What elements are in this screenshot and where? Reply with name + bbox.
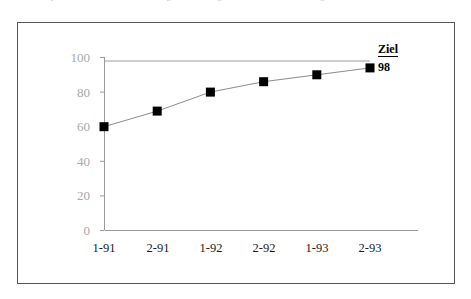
data-point-marker	[312, 70, 321, 79]
y-tick-label-60: 60	[50, 120, 90, 133]
y-tick-label-80: 80	[50, 86, 90, 99]
data-series-markers	[100, 63, 375, 131]
target-value: 98	[378, 60, 398, 74]
y-tick-label-20: 20	[50, 189, 90, 202]
y-tick-label-0: 0	[50, 224, 90, 237]
x-tick-label-2-93: 2-93	[342, 242, 398, 255]
target-annotation: Ziel 98	[378, 39, 398, 74]
y-tick-label-40: 40	[50, 155, 90, 168]
y-tick-label-100: 100	[50, 51, 90, 64]
data-point-marker	[259, 77, 268, 86]
y-axis-ticks	[100, 58, 104, 231]
data-point-marker	[366, 63, 375, 72]
x-tick-label-1-92: 1-92	[183, 242, 239, 255]
x-tick-label-1-93: 1-93	[289, 242, 345, 255]
x-tick-label-1-91: 1-91	[76, 242, 132, 255]
data-series-line	[104, 68, 370, 127]
data-point-marker	[100, 122, 109, 131]
clipped-header-text: Bereich, je nach dem, ob ... Verbesserun…	[18, 0, 454, 1]
chart-plot-area: 100 80 60 40 20 0 1-91 2-91 1-92 2-92 1-…	[18, 23, 456, 285]
figure-frame: 100 80 60 40 20 0 1-91 2-91 1-92 2-92 1-…	[17, 22, 455, 284]
x-tick-label-2-92: 2-92	[236, 242, 292, 255]
x-tick-label-2-91: 2-91	[130, 242, 186, 255]
data-point-marker	[153, 107, 162, 116]
target-label: Ziel	[378, 43, 398, 57]
data-point-marker	[206, 88, 215, 97]
clipped-header-text-strip: Bereich, je nach dem, ob ... Verbesserun…	[0, 0, 471, 9]
